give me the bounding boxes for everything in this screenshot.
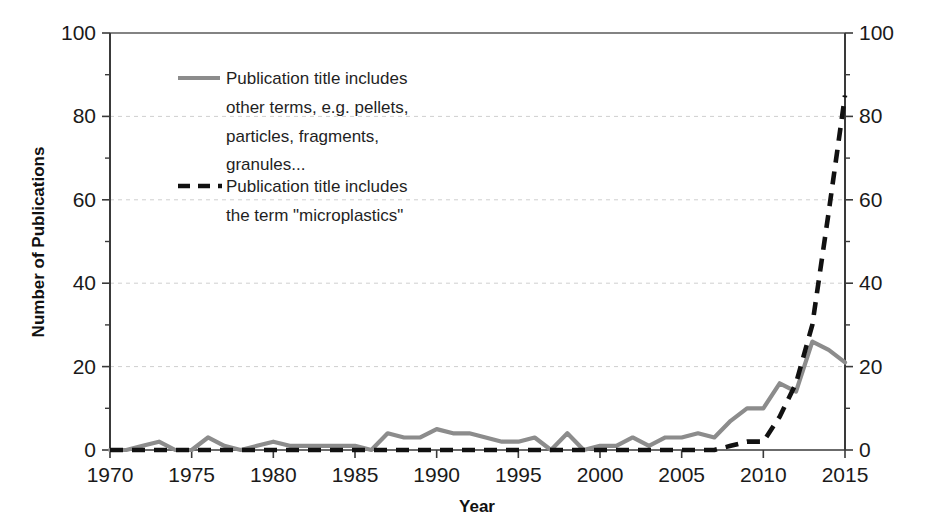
- y-tick-label-left-40: 40: [73, 271, 96, 294]
- y-tick-label-right-100: 100: [859, 21, 894, 44]
- x-tick-label-1980: 1980: [250, 463, 297, 486]
- x-tick-label-2010: 2010: [740, 463, 787, 486]
- y-tick-label-right-40: 40: [859, 271, 882, 294]
- legend-item-0-line-1: other terms, e.g. pellets,: [226, 98, 408, 117]
- y-tick-label-left-20: 20: [73, 355, 96, 378]
- x-tick-label-2015: 2015: [822, 463, 869, 486]
- y-tick-label-left-0: 0: [84, 438, 96, 461]
- publications-line-chart: 020406080100 020406080100 19701975198019…: [0, 0, 928, 530]
- x-axis-title: Year: [459, 497, 495, 516]
- legend-item-1-line-0: Publication title includes: [226, 177, 407, 196]
- legend-item-1-line-1: the term "microplastics": [226, 206, 403, 225]
- x-tick-label-1990: 1990: [413, 463, 460, 486]
- y-axis-title: Number of Publications: [29, 147, 48, 338]
- x-tick-label-1985: 1985: [332, 463, 379, 486]
- y-tick-label-right-80: 80: [859, 104, 882, 127]
- x-tick-label-2000: 2000: [577, 463, 624, 486]
- legend-item-0-line-0: Publication title includes: [226, 69, 407, 88]
- y-tick-label-right-0: 0: [859, 438, 871, 461]
- y-tick-label-left-100: 100: [61, 21, 96, 44]
- y-tick-label-left-60: 60: [73, 188, 96, 211]
- chart-container: 020406080100 020406080100 19701975198019…: [0, 0, 928, 530]
- y-tick-label-left-80: 80: [73, 104, 96, 127]
- x-tick-label-1970: 1970: [87, 463, 134, 486]
- y-tick-label-right-60: 60: [859, 188, 882, 211]
- x-tick-label-1975: 1975: [168, 463, 215, 486]
- x-tick-label-1995: 1995: [495, 463, 542, 486]
- x-tick-label-2005: 2005: [658, 463, 705, 486]
- legend-item-0-line-2: particles, fragments,: [226, 127, 379, 146]
- legend-item-0-line-3: granules...: [226, 155, 305, 174]
- y-tick-label-right-20: 20: [859, 355, 882, 378]
